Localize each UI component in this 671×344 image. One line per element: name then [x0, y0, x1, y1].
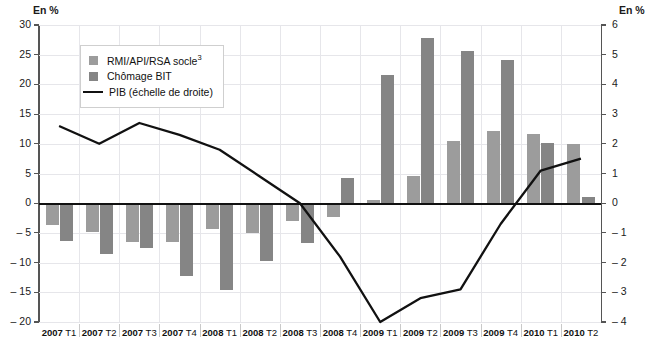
legend-swatch-chomage-icon [89, 72, 98, 81]
axis-tick-label: 5 [0, 167, 31, 179]
axis-tick [601, 262, 606, 263]
legend-item-rmi: RMI/API/RSA socle3 [89, 52, 213, 68]
x-axis-label: 2009 T4 [481, 327, 521, 338]
x-axis-label: 2007 T2 [79, 327, 119, 338]
x-axis-separator [320, 324, 321, 337]
axis-tick [34, 173, 39, 174]
axis-tick [601, 292, 606, 293]
legend-item-pib: PIB (échelle de droite) [89, 84, 213, 100]
x-axis-separator [240, 324, 241, 337]
x-axis-label: 2008 T4 [320, 327, 360, 338]
axis-tick-label: – 15 [0, 285, 31, 297]
x-axis-separator [79, 324, 80, 337]
x-axis-label: 2009 T2 [400, 327, 440, 338]
x-axis-label: 2008 T3 [280, 327, 320, 338]
axis-tick-label: 30 [0, 18, 31, 30]
left-axis-unit-label: En % [33, 4, 59, 16]
axis-tick [34, 24, 39, 25]
x-axis-separator [280, 324, 281, 337]
x-axis-separator [440, 324, 441, 337]
axis-tick-label: – 5 [0, 226, 31, 238]
axis-tick-label: 10 [0, 137, 31, 149]
x-axis-separator [481, 324, 482, 337]
axis-tick [601, 24, 606, 25]
x-axis-label: 2010 T2 [561, 327, 601, 338]
axis-tick-label: 6 [612, 18, 652, 30]
axis-tick-label: 25 [0, 48, 31, 60]
axis-tick [601, 143, 606, 144]
axis-tick-label: 0 [0, 196, 31, 208]
legend-item-chomage: Chômage BIT [89, 68, 213, 84]
axis-tick-label: – 10 [0, 256, 31, 268]
x-axis-separator [360, 324, 361, 337]
axis-tick [34, 54, 39, 55]
x-axis-separator [521, 324, 522, 337]
axis-tick-label: 0 [612, 196, 652, 208]
axis-tick [34, 84, 39, 85]
axis-tick [34, 143, 39, 144]
chart-legend: RMI/API/RSA socle3 Chômage BIT PIB (éche… [80, 45, 224, 108]
x-axis-separator [561, 324, 562, 337]
x-axis-label: 2007 T4 [159, 327, 199, 338]
axis-tick [601, 203, 606, 204]
axis-tick-label: 3 [612, 107, 652, 119]
x-axis-separator [400, 324, 401, 337]
axis-tick [34, 292, 39, 293]
axis-tick [601, 54, 606, 55]
zero-baseline [39, 203, 601, 204]
axis-tick [34, 114, 39, 115]
axis-tick-label: 20 [0, 77, 31, 89]
pib-line [59, 123, 581, 322]
legend-label-chomage: Chômage BIT [107, 70, 172, 82]
axis-tick [601, 173, 606, 174]
axis-tick-label: – 4 [612, 315, 652, 327]
axis-tick [601, 114, 606, 115]
x-axis-label: 2007 T1 [39, 327, 79, 338]
legend-label-rmi: RMI/API/RSA socle3 [107, 53, 202, 67]
axis-tick-label: – 3 [612, 285, 652, 297]
axis-tick [34, 262, 39, 263]
x-axis-separator [159, 324, 160, 337]
axis-tick-label: 4 [612, 77, 652, 89]
x-axis-label: 2008 T1 [200, 327, 240, 338]
chart-figure: En % En % 302520151050– 5– 10– 15– 20 65… [0, 0, 671, 344]
legend-swatch-rmi-icon [89, 56, 98, 65]
axis-tick [34, 321, 39, 322]
gridline [39, 322, 601, 323]
axis-tick [601, 232, 606, 233]
x-axis-label: 2010 T1 [521, 327, 561, 338]
axis-tick-label: – 2 [612, 256, 652, 268]
x-axis-label: 2009 T1 [360, 327, 400, 338]
legend-label-pib: PIB (échelle de droite) [109, 86, 213, 98]
axis-tick [601, 84, 606, 85]
x-axis-separator [119, 324, 120, 337]
axis-tick-label: 2 [612, 137, 652, 149]
legend-line-pib-icon [83, 91, 103, 94]
axis-tick-label: 15 [0, 107, 31, 119]
x-axis-label: 2007 T3 [119, 327, 159, 338]
axis-tick-label: 1 [612, 167, 652, 179]
x-axis-label: 2009 T3 [440, 327, 480, 338]
axis-tick-label: – 20 [0, 315, 31, 327]
axis-tick [34, 232, 39, 233]
axis-tick [601, 321, 606, 322]
x-axis-separator [200, 324, 201, 337]
right-axis-unit-label: En % [619, 4, 645, 16]
axis-tick-label: – 1 [612, 226, 652, 238]
x-axis-label: 2008 T2 [240, 327, 280, 338]
axis-tick-label: 5 [612, 48, 652, 60]
